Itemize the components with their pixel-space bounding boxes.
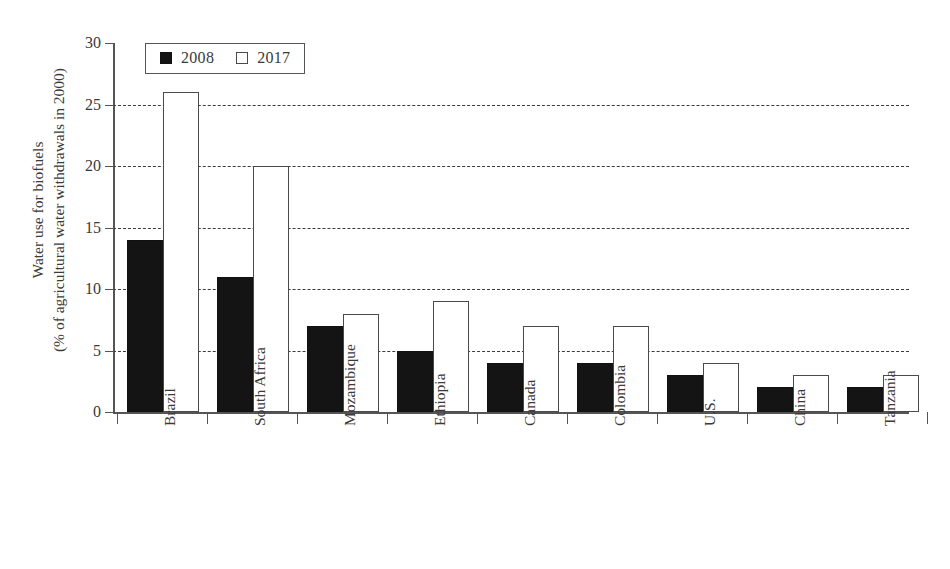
y-axis-title-line1: Water use for biofuels [27, 68, 48, 352]
category-label-mozambique: Mozambique [341, 344, 359, 426]
x-tick-mark [927, 412, 928, 424]
y-tick-mark [105, 289, 114, 290]
y-tick-label: 5 [93, 342, 101, 360]
category-label-u-s-: U.S. [701, 398, 719, 426]
category-label-ethiopia: Ethiopia [431, 373, 449, 426]
legend-label-2008: 2008 [181, 49, 214, 67]
x-axis-line [113, 412, 909, 414]
y-tick-mark [105, 412, 114, 413]
bar-colombia-2008 [577, 363, 613, 412]
x-tick-mark [477, 412, 478, 424]
y-tick-label: 0 [93, 403, 101, 421]
y-tick-label: 25 [85, 96, 101, 114]
y-tick-mark [105, 351, 114, 352]
bar-tanzania-2008 [847, 387, 883, 412]
category-label-colombia: Colombia [611, 365, 629, 426]
x-tick-mark [207, 412, 208, 424]
chart-legend: 2008 2017 [145, 43, 305, 74]
y-tick-mark [105, 105, 114, 106]
category-label-south-africa: South Africa [251, 347, 269, 426]
x-tick-mark [567, 412, 568, 424]
legend-label-2017: 2017 [257, 49, 290, 67]
y-tick-label: 15 [85, 219, 101, 237]
category-label-brazil: Brazil [161, 388, 179, 426]
bar-canada-2008 [487, 363, 523, 412]
x-tick-mark [657, 412, 658, 424]
open-square-icon [236, 52, 248, 64]
gridline [113, 105, 909, 106]
y-tick-mark [105, 228, 114, 229]
filled-square-icon [160, 52, 172, 64]
bar-brazil-2017 [163, 92, 199, 412]
y-tick-mark [105, 166, 114, 167]
category-label-china: China [791, 389, 809, 426]
x-tick-mark [747, 412, 748, 424]
y-axis-title: Water use for biofuels (% of agricultura… [0, 0, 96, 420]
y-axis-title-line2: (% of agricultural water withdrawals in … [48, 68, 69, 352]
bar-mozambique-2008 [307, 326, 343, 412]
y-tick-label: 20 [85, 157, 101, 175]
bar-ethiopia-2008 [397, 351, 433, 413]
category-label-tanzania: Tanzania [881, 370, 899, 426]
bar-china-2008 [757, 387, 793, 412]
legend-item-2017: 2017 [236, 49, 290, 67]
bar-u-s--2008 [667, 375, 703, 412]
chart-figure: Water use for biofuels (% of agricultura… [0, 0, 950, 569]
plot-area: 051015202530 [113, 43, 909, 412]
category-label-canada: Canada [521, 380, 539, 426]
x-tick-mark [387, 412, 388, 424]
y-tick-label: 10 [85, 280, 101, 298]
gridline [113, 166, 909, 167]
x-tick-mark [297, 412, 298, 424]
bar-brazil-2008 [127, 240, 163, 412]
y-tick-label: 30 [85, 34, 101, 52]
x-tick-mark [117, 412, 118, 424]
legend-item-2008: 2008 [160, 49, 214, 67]
bar-south-africa-2008 [217, 277, 253, 412]
x-tick-mark [837, 412, 838, 424]
gridline [113, 228, 909, 229]
y-tick-mark [105, 43, 114, 44]
